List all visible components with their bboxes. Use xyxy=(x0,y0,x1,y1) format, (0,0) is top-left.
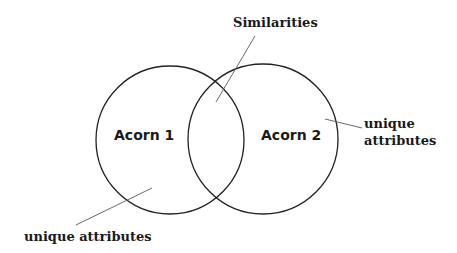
venn-svg: Acorn 1 Acorn 2 Similarities unique attr… xyxy=(0,0,457,253)
label-acorn1-unique: unique attributes xyxy=(24,229,152,244)
leader-line-acorn2-unique xyxy=(325,119,362,128)
label-acorn2-unique-line1: unique xyxy=(364,116,415,131)
label-acorn2-unique-line2: attributes xyxy=(364,133,436,148)
label-similarities: Similarities xyxy=(233,15,318,30)
venn-diagram: Acorn 1 Acorn 2 Similarities unique attr… xyxy=(0,0,457,253)
label-acorn-1: Acorn 1 xyxy=(114,127,174,143)
leader-line-similarities xyxy=(216,36,255,102)
label-acorn-2: Acorn 2 xyxy=(261,127,321,143)
leader-line-acorn1-unique xyxy=(76,188,152,225)
